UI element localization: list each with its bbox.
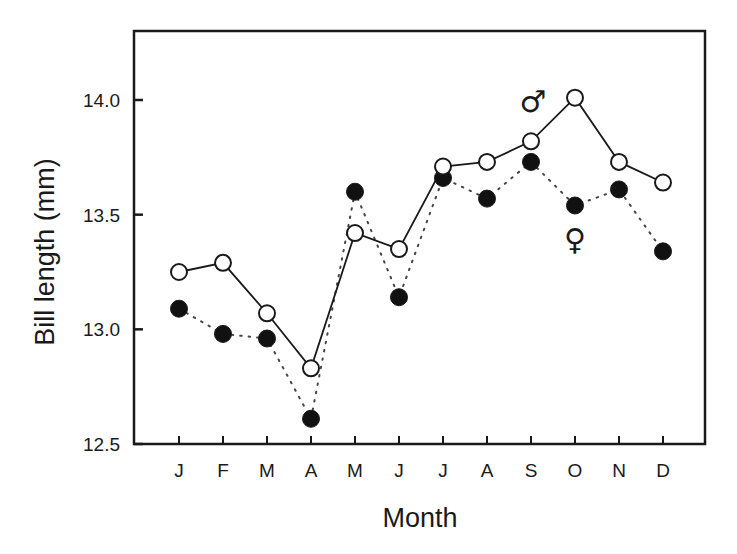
bill-length-chart: 12.513.013.514.0 JFMAMJJASOND ♂♀ Month B…: [0, 0, 737, 554]
x-tick-label: J: [438, 460, 448, 481]
y-tick-label: 13.5: [83, 205, 120, 226]
male-data-point: [611, 154, 627, 170]
male-data-point: [259, 305, 275, 321]
x-tick-label: F: [217, 460, 229, 481]
x-axis-title: Month: [382, 503, 457, 533]
y-tick-label: 13.0: [83, 319, 120, 340]
x-tick-label: M: [347, 460, 363, 481]
x-tick-label: D: [656, 460, 670, 481]
series-markers: [171, 90, 672, 428]
female-data-point: [567, 197, 584, 214]
male-symbol-icon: ♂: [520, 84, 547, 119]
male-data-point: [303, 360, 319, 376]
male-data-point: [523, 133, 539, 149]
x-tick-label: A: [305, 460, 318, 481]
x-tick-label: J: [174, 460, 184, 481]
female-line: [179, 162, 663, 419]
male-data-point: [215, 255, 231, 271]
x-tick-label: S: [525, 460, 538, 481]
y-tick-label: 14.0: [83, 90, 120, 111]
male-data-point: [347, 225, 363, 241]
x-tick-label: N: [612, 460, 626, 481]
female-data-point: [391, 289, 408, 306]
female-data-point: [215, 325, 232, 342]
male-data-point: [391, 241, 407, 257]
male-data-point: [479, 154, 495, 170]
female-data-point: [347, 183, 364, 200]
male-data-point: [435, 159, 451, 175]
male-data-point: [655, 175, 671, 191]
x-tick-label: A: [481, 460, 494, 481]
male-line: [179, 98, 663, 369]
series-lines: [179, 98, 663, 419]
female-data-point: [259, 330, 276, 347]
female-data-point: [171, 300, 188, 317]
female-data-point: [611, 181, 628, 198]
female-symbol-icon: ♀: [564, 222, 586, 257]
female-data-point: [479, 190, 496, 207]
y-tick-label: 12.5: [83, 434, 120, 455]
male-data-point: [567, 90, 583, 106]
female-data-point: [523, 153, 540, 170]
plot-frame: [134, 31, 705, 444]
y-axis-title: Bill length (mm): [30, 158, 60, 346]
female-data-point: [303, 410, 320, 427]
male-data-point: [171, 264, 187, 280]
female-data-point: [655, 243, 672, 260]
x-tick-label: O: [568, 460, 583, 481]
x-tick-label: M: [259, 460, 275, 481]
x-tick-label: J: [394, 460, 404, 481]
